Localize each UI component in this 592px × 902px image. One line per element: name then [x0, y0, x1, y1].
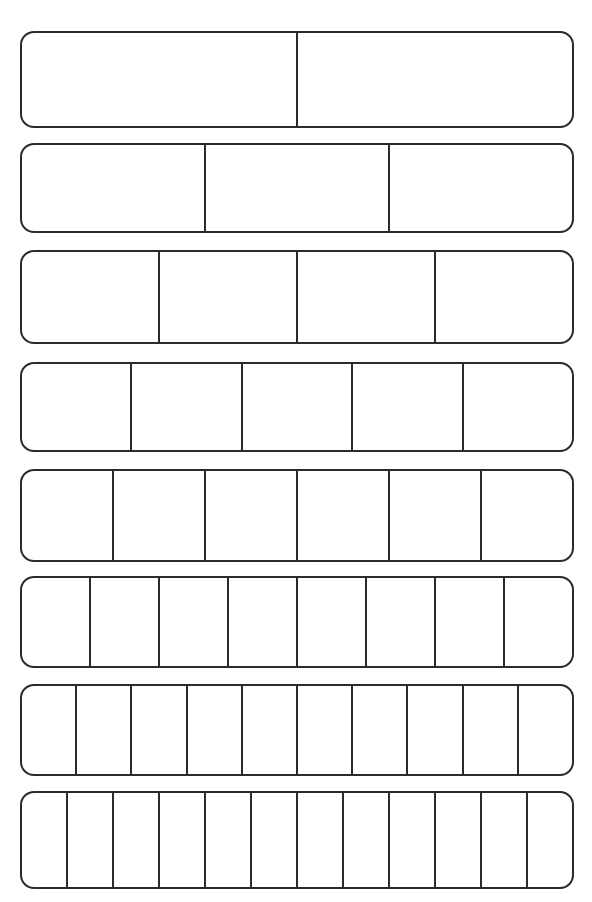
fraction-cell[interactable] — [482, 471, 572, 560]
fraction-strip-fourths[interactable] — [20, 250, 574, 344]
fraction-cell[interactable] — [367, 578, 436, 666]
fraction-strip-halves[interactable] — [20, 31, 574, 128]
fraction-cell[interactable] — [243, 364, 353, 450]
fraction-cell[interactable] — [160, 252, 298, 342]
fraction-cell[interactable] — [505, 578, 572, 666]
fraction-cell[interactable] — [519, 686, 572, 774]
fraction-strip-eighths[interactable] — [20, 576, 574, 668]
fraction-cell[interactable] — [482, 793, 528, 887]
fraction-strip-sixths[interactable] — [20, 469, 574, 562]
fraction-cell[interactable] — [390, 793, 436, 887]
fraction-cell[interactable] — [132, 364, 242, 450]
fraction-cell[interactable] — [22, 471, 114, 560]
fraction-cell[interactable] — [436, 252, 572, 342]
fraction-cell[interactable] — [298, 686, 353, 774]
fraction-cell[interactable] — [229, 578, 298, 666]
fraction-strip-twelfths[interactable] — [20, 791, 574, 889]
fraction-cell[interactable] — [436, 578, 505, 666]
fraction-cell[interactable] — [91, 578, 160, 666]
fraction-cell[interactable] — [464, 686, 519, 774]
fraction-strip-tenths[interactable] — [20, 684, 574, 776]
fraction-cell[interactable] — [528, 793, 572, 887]
fraction-cell[interactable] — [464, 364, 572, 450]
fraction-cell[interactable] — [160, 578, 229, 666]
fraction-cell[interactable] — [252, 793, 298, 887]
fraction-cell[interactable] — [298, 578, 367, 666]
fraction-cell[interactable] — [390, 471, 482, 560]
fraction-cell[interactable] — [22, 793, 68, 887]
fraction-cell[interactable] — [408, 686, 463, 774]
fraction-cell[interactable] — [160, 793, 206, 887]
fraction-cell[interactable] — [298, 252, 436, 342]
fraction-cell[interactable] — [206, 145, 390, 231]
fraction-cell[interactable] — [206, 793, 252, 887]
fraction-cell[interactable] — [22, 33, 298, 126]
fraction-cell[interactable] — [114, 471, 206, 560]
fraction-cell[interactable] — [22, 686, 77, 774]
fraction-cell[interactable] — [188, 686, 243, 774]
fraction-cell[interactable] — [22, 578, 91, 666]
fraction-cell[interactable] — [353, 364, 463, 450]
fraction-cell[interactable] — [344, 793, 390, 887]
fraction-cell[interactable] — [298, 793, 344, 887]
fraction-cell[interactable] — [132, 686, 187, 774]
fraction-cell[interactable] — [206, 471, 298, 560]
fraction-cell[interactable] — [22, 145, 206, 231]
fraction-strip-fifths[interactable] — [20, 362, 574, 452]
fraction-cell[interactable] — [77, 686, 132, 774]
fraction-cell[interactable] — [68, 793, 114, 887]
fraction-cell[interactable] — [243, 686, 298, 774]
fraction-strips-sheet — [0, 0, 592, 902]
fraction-cell[interactable] — [298, 33, 572, 126]
fraction-strip-thirds[interactable] — [20, 143, 574, 233]
fraction-cell[interactable] — [390, 145, 572, 231]
fraction-cell[interactable] — [22, 364, 132, 450]
fraction-cell[interactable] — [114, 793, 160, 887]
fraction-cell[interactable] — [22, 252, 160, 342]
fraction-cell[interactable] — [298, 471, 390, 560]
fraction-cell[interactable] — [353, 686, 408, 774]
fraction-cell[interactable] — [436, 793, 482, 887]
